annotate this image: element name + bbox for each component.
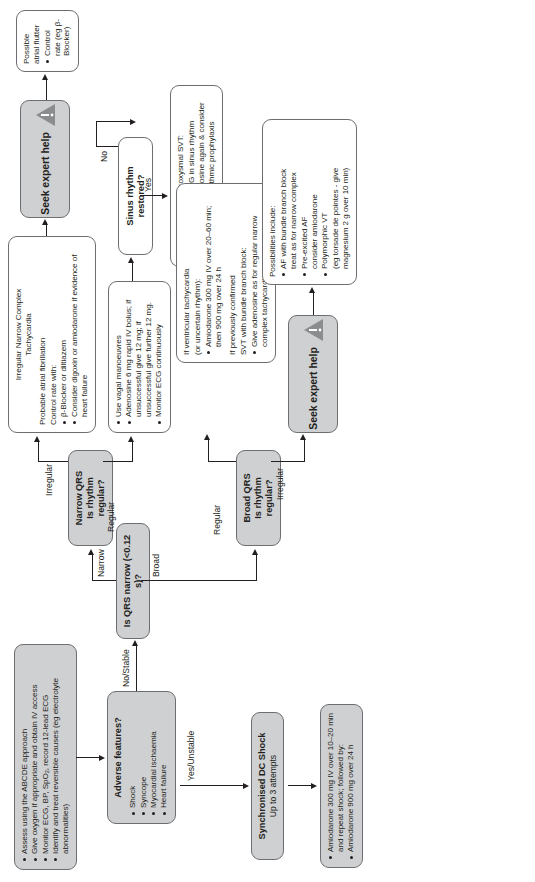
arrow-head xyxy=(128,436,134,442)
edge-label-regular-broad: Regular xyxy=(212,505,222,535)
edge-label-broad: Broad xyxy=(151,554,161,577)
bullet: Amiodarone 900 mg over 24 h xyxy=(346,712,356,860)
connector xyxy=(46,78,47,100)
node-line-1: Synchronised DC Shock xyxy=(257,720,268,852)
node-is-qrs-narrow: Is QRS narrow (<0.12 s)? xyxy=(116,523,150,639)
node-title: Adverse features? xyxy=(113,699,124,816)
seek-expert-help-bottom: Seek expert help xyxy=(288,315,338,433)
connector xyxy=(103,461,133,462)
node-line-2: Up to 3 attempts xyxy=(268,720,278,852)
node-lead: Possibilities include: xyxy=(268,127,278,277)
connector xyxy=(271,461,305,462)
arrow-head xyxy=(252,549,258,555)
node-sinus-rhythm-restored: Sinus rhythm restored? xyxy=(118,137,153,255)
connector xyxy=(132,440,133,462)
edge-label-yes: Yes xyxy=(143,178,153,192)
warning-triangle-icon xyxy=(35,103,56,127)
bullet: Identify and treat reversible causes (eg… xyxy=(51,652,71,862)
bullet: Amiodarone 300 mg IV over 10–20 min and … xyxy=(326,712,346,860)
node-irregular-narrow-complex: Irregular Narrow Complex Tachycardia Pro… xyxy=(8,236,96,433)
arrow-head xyxy=(132,640,138,646)
arrow-head xyxy=(300,434,306,440)
arrow-head xyxy=(243,783,249,789)
seek-expert-help-label: Seek expert help xyxy=(308,347,319,430)
edge-label-irregular-narrow: Irregular xyxy=(44,464,54,496)
node-line-4: Control rate with: xyxy=(49,244,59,425)
seek-expert-help-top: Seek expert help xyxy=(20,100,70,218)
flowchart-root: Assess using the ABCDE approach Give oxy… xyxy=(0,0,535,882)
bullet: Shock xyxy=(128,699,138,816)
bullet: Syncope xyxy=(139,699,149,816)
node-line-3: If previously confirmed xyxy=(228,191,238,355)
edge-label-no-stable: No/Stable xyxy=(121,649,131,687)
arrow-head xyxy=(130,119,136,125)
connector xyxy=(96,146,118,147)
node-lead: Possible atrial flutter xyxy=(22,18,42,64)
node-line-1: Irregular Narrow Complex xyxy=(14,244,24,425)
bullet: Consider digoxin or amiodarone if eviden… xyxy=(70,244,90,425)
bullet-sub: (eg torsade de pointes - give magnesium … xyxy=(331,127,351,277)
bullet: Use vagal manoeuvres xyxy=(114,289,124,425)
connector xyxy=(92,553,93,581)
connector xyxy=(288,785,313,786)
connector xyxy=(141,580,257,581)
connector xyxy=(208,461,236,462)
node-initial-assessment: Assess using the ABCDE approach Give oxy… xyxy=(14,644,77,870)
arrow-head xyxy=(99,755,105,761)
node-line-2: Tachycardia xyxy=(24,244,34,425)
connector xyxy=(180,785,208,786)
arrow-head xyxy=(42,219,48,225)
bullet: AF with bundle branch block xyxy=(279,127,289,277)
arrow-head xyxy=(34,436,40,442)
edge-label-narrow: Narrow xyxy=(96,549,106,577)
bullet: Amiodarone 300 mg IV over 20–60 min; the… xyxy=(204,191,224,355)
connector xyxy=(208,438,209,462)
node-line-1: If ventricular tachycardia xyxy=(182,191,192,355)
node-amiodarone-post-shock: Amiodarone 300 mg IV over 10–20 min and … xyxy=(320,704,363,868)
connector xyxy=(140,195,164,196)
connector xyxy=(256,553,257,581)
connector xyxy=(92,580,116,581)
node-title: Sinus rhythm restored? xyxy=(124,145,147,247)
edge-label-regular-narrow: Regular xyxy=(106,502,116,532)
bullet: Assess using the ABCDE approach xyxy=(20,652,30,862)
node-line-2: Is rhythm regular? xyxy=(85,458,107,538)
bullet: β-Blocker or diltiazem xyxy=(59,244,69,425)
connector xyxy=(136,644,137,691)
arrow-head xyxy=(42,74,48,80)
bullet: Pre-excited AF xyxy=(300,127,310,277)
edge-label-no: No xyxy=(99,151,109,162)
seek-expert-help-label: Seek expert help xyxy=(40,132,51,215)
bullet: Monitor ECG, BP, SpO₂, record 12-lead EC… xyxy=(41,652,51,862)
arrow-head xyxy=(309,287,315,293)
node-title: Is QRS narrow (<0.12 s)? xyxy=(122,531,144,631)
warning-triangle-icon xyxy=(303,318,324,342)
flowchart-canvas: Assess using the ABCDE approach Give oxy… xyxy=(0,0,535,882)
bullet: Heart failure xyxy=(159,699,169,816)
arrow-head xyxy=(162,193,168,199)
node-line-2: (or uncertain rhythm): xyxy=(193,191,203,355)
node-adverse-features: Adverse features? Shock Syncope Myocardi… xyxy=(107,691,176,824)
bullet-sub: consider amiodarone xyxy=(310,127,320,277)
node-line-3: Probable atrial fibrillation xyxy=(38,244,48,425)
bullet: Adenosine 6 mg rapid IV bolus; if unsucc… xyxy=(124,289,154,425)
connector xyxy=(96,121,132,122)
connector xyxy=(313,291,314,315)
connector xyxy=(304,438,305,462)
bullet-sub: treat as for narrow complex xyxy=(289,127,299,277)
connector xyxy=(38,461,68,462)
arrow-head xyxy=(88,549,94,555)
edge-label-yes-unstable: Yes/Unstable xyxy=(186,731,196,781)
node-vt-or-svt-bbb: If ventricular tachycardia (or uncertain… xyxy=(176,183,276,363)
edge-label-irregular-broad: Irregular xyxy=(275,468,285,500)
node-line-1: Broad QRS xyxy=(242,458,253,538)
arrow-head xyxy=(204,434,210,440)
arrow-head xyxy=(311,783,317,789)
node-line-2: Is rhythm regular? xyxy=(253,458,275,538)
connector xyxy=(38,440,39,462)
node-synchronised-dc-shock: Synchronised DC Shock Up to 3 attempts xyxy=(251,712,284,860)
bullet: Myocardial ischaemia xyxy=(149,699,159,816)
node-vagal-adenosine: Use vagal manoeuvres Adenosine 6 mg rapi… xyxy=(108,281,171,433)
bullet: Polymorphic VT xyxy=(320,127,330,277)
connector xyxy=(96,121,97,147)
